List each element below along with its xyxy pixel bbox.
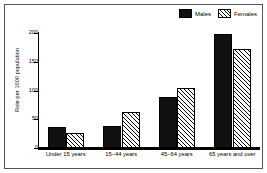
y-axis-title: Rate per 1000 population [14,30,24,130]
x-axis-label: Under 15 years [38,152,94,158]
bar-males [103,126,121,148]
bar-females [177,88,195,148]
y-tick-label: 0 [10,145,38,151]
y-tick-label: 100 [10,88,38,94]
bar-females [66,133,84,148]
y-tick-label: 50 [10,116,38,122]
bar-males [48,127,66,148]
bar-females [122,112,140,148]
y-tick-row: 100 [0,91,38,92]
plot-area: Rate per 1000 population 050100150200 Un… [0,0,267,173]
x-axis-label: 45–64 years [149,152,205,158]
bar-males [214,34,232,148]
x-axis-label: 15–44 years [94,152,150,158]
bar-males [159,97,177,148]
y-tick-row: 200 [0,33,38,34]
y-tick-row: 50 [0,119,38,120]
chart-figure: Males Females Rate per 1000 population 0… [0,0,267,173]
bar-females [233,49,251,148]
y-tick-row: 150 [0,62,38,63]
bars-layer [38,33,260,148]
y-tick-label: 200 [10,30,38,36]
y-tick-row: 0 [0,148,38,149]
x-axis-label: 65 years and over [205,152,261,158]
x-axis-labels: Under 15 years15–44 years45–64 years65 y… [38,152,260,164]
y-tick-label: 150 [10,59,38,65]
